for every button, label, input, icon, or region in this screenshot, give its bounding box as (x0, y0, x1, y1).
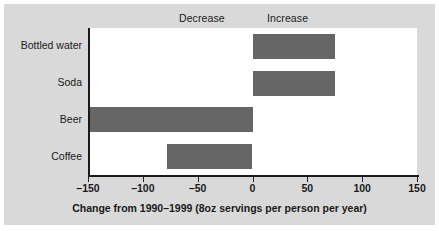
x-tick-label: 50 (301, 182, 313, 194)
chart-figure: Decrease Increase Bottled waterSodaBeerC… (4, 4, 435, 225)
category-label: Coffee (4, 150, 82, 162)
y-axis-spine (88, 28, 90, 177)
decrease-annotation-label: Decrease (179, 12, 225, 24)
x-axis-spine (88, 175, 419, 177)
x-tick-label: –100 (131, 182, 154, 194)
x-tick-label: –150 (76, 182, 99, 194)
increase-annotation-label: Increase (267, 12, 308, 24)
bar (253, 71, 335, 96)
x-tick-label: 100 (353, 182, 371, 194)
x-axis-title: Change from 1990–1999 (8oz servings per … (4, 202, 435, 214)
category-label: Beer (4, 113, 82, 125)
x-tick-label: 150 (408, 182, 426, 194)
x-tick-label: 0 (250, 182, 256, 194)
x-tick-label: –50 (189, 182, 207, 194)
category-label: Bottled water (4, 39, 82, 51)
bar (253, 34, 335, 59)
bar (167, 144, 253, 169)
category-label: Soda (4, 76, 82, 88)
bar (88, 107, 253, 132)
